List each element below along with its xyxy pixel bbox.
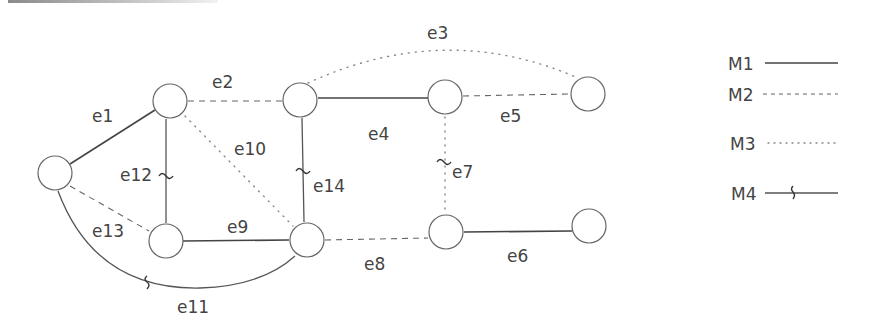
node-i[interactable] xyxy=(572,209,606,243)
legend: M1 M2 M3 M4 xyxy=(728,54,838,204)
label-e3: e3 xyxy=(427,23,448,43)
edge-e10 xyxy=(185,116,293,226)
legend-item-m1: M1 xyxy=(728,54,838,74)
node-h[interactable] xyxy=(429,215,463,249)
legend-item-m3: M3 xyxy=(730,134,838,154)
edge-e6 xyxy=(464,231,572,232)
node-e[interactable] xyxy=(283,83,317,117)
edge-e8 xyxy=(325,238,428,240)
label-e5: e5 xyxy=(500,106,521,126)
node-d[interactable] xyxy=(290,223,324,257)
label-e6: e6 xyxy=(507,246,528,266)
label-e1: e1 xyxy=(92,106,113,126)
edge-e5 xyxy=(463,94,570,96)
graph-diagram: e1 e2 e3 e4 e5 e6 e7 e8 e9 e10 e11 e12 e… xyxy=(0,0,874,332)
node-b[interactable] xyxy=(153,84,187,118)
label-e7: e7 xyxy=(452,162,473,182)
label-e11: e11 xyxy=(177,297,209,317)
legend-label-m4: M4 xyxy=(731,184,756,204)
edge-e3 xyxy=(308,50,578,83)
label-e8: e8 xyxy=(364,254,385,274)
label-e9: e9 xyxy=(227,217,248,237)
label-e10: e10 xyxy=(234,139,266,159)
edge-e9 xyxy=(183,240,289,241)
label-e14: e14 xyxy=(313,176,345,196)
legend-label-m1: M1 xyxy=(728,54,753,74)
squiggle-icon-e7 xyxy=(437,160,451,165)
node-f[interactable] xyxy=(428,80,462,114)
legend-item-m4: M4 xyxy=(731,184,838,204)
squiggle-icon-e11 xyxy=(145,276,149,289)
node-g[interactable] xyxy=(571,77,605,111)
legend-item-m2: M2 xyxy=(728,85,838,105)
edge-labels: e1 e2 e3 e4 e5 e6 e7 e8 e9 e10 e11 e12 e… xyxy=(92,23,528,317)
label-e4: e4 xyxy=(368,124,389,144)
legend-label-m3: M3 xyxy=(730,134,755,154)
node-c[interactable] xyxy=(149,224,183,258)
label-e12: e12 xyxy=(120,165,152,185)
squiggle-markers xyxy=(145,160,451,290)
label-e13: e13 xyxy=(92,221,124,241)
node-a[interactable] xyxy=(38,156,72,190)
legend-label-m2: M2 xyxy=(728,85,753,105)
label-e2: e2 xyxy=(212,72,233,92)
